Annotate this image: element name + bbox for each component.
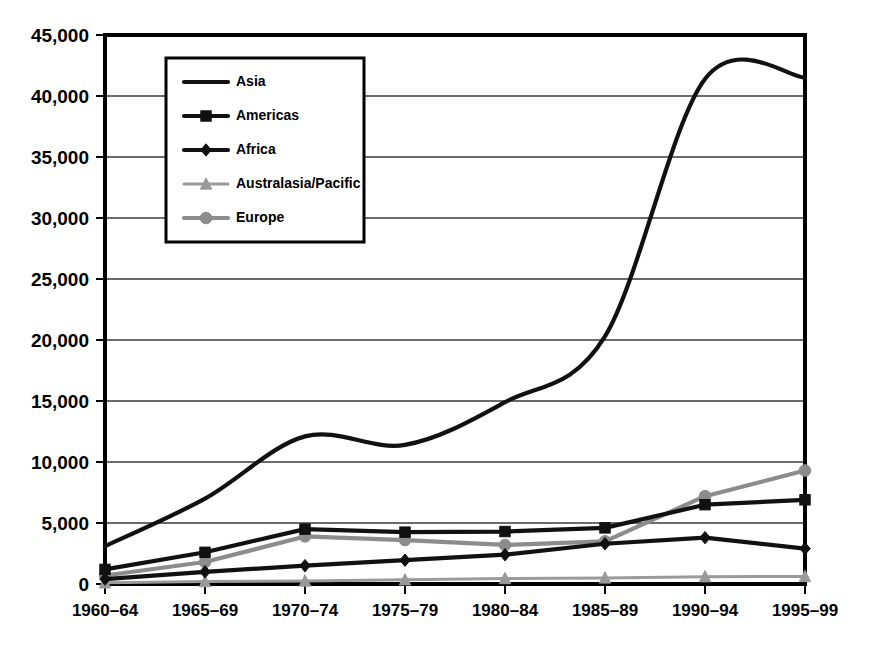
y-axis-tick-labels: 05,00010,00015,00020,00025,00030,00035,0… <box>31 25 89 595</box>
x-tick-label: 1980–84 <box>472 601 539 620</box>
data-point-marker <box>700 500 710 510</box>
data-point-marker <box>200 547 210 557</box>
y-tick-label: 10,000 <box>31 452 89 473</box>
x-tick-label: 1970–74 <box>272 601 339 620</box>
chart-container: 05,00010,00015,00020,00025,00030,00035,0… <box>0 0 874 655</box>
x-axis-tick-labels: 1960–641965–691970–741975–791980–841985–… <box>72 601 838 620</box>
data-point-marker <box>500 549 510 561</box>
data-point-marker <box>400 554 410 566</box>
data-point-marker <box>300 524 310 534</box>
y-tick-label: 35,000 <box>31 147 89 168</box>
y-tick-label: 20,000 <box>31 330 89 351</box>
data-point-marker <box>300 560 310 572</box>
x-tick-label: 1975–79 <box>372 601 438 620</box>
y-tick-label: 0 <box>78 574 89 595</box>
data-point-marker <box>200 566 210 578</box>
y-tick-label: 15,000 <box>31 391 89 412</box>
legend-label: Australasia/Pacific <box>236 175 361 191</box>
legend-label: Africa <box>236 141 276 157</box>
legend-label: Americas <box>236 107 299 123</box>
y-tick-label: 40,000 <box>31 86 89 107</box>
x-tick-label: 1985–89 <box>572 601 638 620</box>
y-tick-label: 5,000 <box>41 513 89 534</box>
data-point-marker <box>800 542 810 554</box>
data-point-marker <box>700 531 710 543</box>
legend-label: Asia <box>236 73 266 89</box>
data-point-marker <box>400 527 410 537</box>
x-tick-label: 1965–69 <box>172 601 238 620</box>
x-tick-label: 1960–64 <box>72 601 139 620</box>
data-point-marker <box>500 526 510 536</box>
line-chart: 05,00010,00015,00020,00025,00030,00035,0… <box>0 0 874 655</box>
data-point-marker <box>600 523 610 533</box>
chart-legend: AsiaAmericasAfricaAustralasia/PacificEur… <box>166 58 364 242</box>
legend-label: Europe <box>236 209 284 225</box>
x-tick-label: 1990–94 <box>672 601 739 620</box>
x-tick-label: 1995–99 <box>772 601 838 620</box>
y-tick-label: 30,000 <box>31 208 89 229</box>
y-tick-label: 45,000 <box>31 25 89 46</box>
data-point-marker <box>800 495 810 505</box>
y-tick-label: 25,000 <box>31 269 89 290</box>
legend-swatch-marker <box>201 111 211 121</box>
data-point-marker <box>799 465 811 477</box>
legend-swatch-marker <box>200 212 212 224</box>
